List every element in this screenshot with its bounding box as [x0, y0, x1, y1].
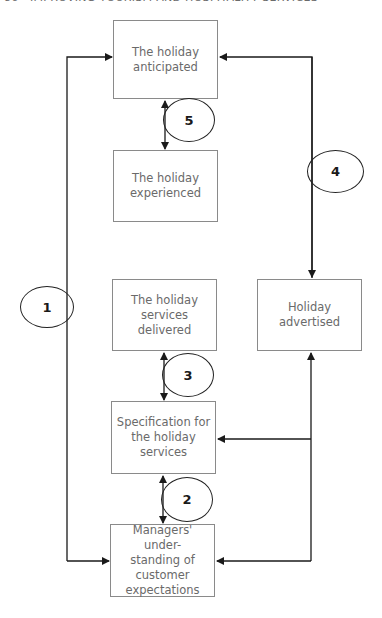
box-services-delivered: The holiday services delivered — [112, 279, 217, 351]
box-label: Managers' under- standing of customer ex… — [111, 523, 214, 598]
box-label: Specification for the holiday services — [113, 415, 214, 460]
box-specification: Specification for the holiday services — [111, 401, 216, 474]
gap-label: 2 — [182, 492, 191, 507]
gap-label: 1 — [42, 300, 51, 315]
box-label: The holiday experienced — [126, 171, 205, 201]
box-holiday-experienced: The holiday experienced — [113, 150, 218, 222]
gap-label: 3 — [183, 368, 192, 383]
gap-label: 5 — [184, 113, 193, 128]
gap-4-ellipse: 4 — [307, 150, 364, 193]
gap-label: 4 — [331, 164, 340, 179]
box-managers-understanding: Managers' under- standing of customer ex… — [110, 524, 215, 597]
gap-2-ellipse: 2 — [161, 477, 213, 522]
box-label: The holiday services delivered — [113, 293, 216, 338]
gap-5-ellipse: 5 — [163, 98, 215, 142]
box-label: Holiday advertised — [275, 300, 344, 330]
gap-1-ellipse: 1 — [20, 286, 74, 328]
box-holiday-anticipated: The holiday anticipated — [113, 20, 218, 99]
box-label: The holiday anticipated — [128, 45, 203, 75]
gap-3-ellipse: 3 — [162, 353, 214, 397]
box-holiday-advertised: Holiday advertised — [257, 279, 362, 351]
